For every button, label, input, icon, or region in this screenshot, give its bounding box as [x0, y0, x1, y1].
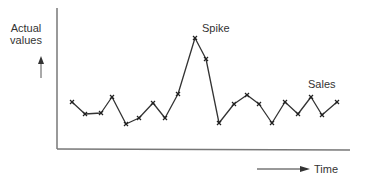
- y-axis-label-line2: values: [4, 34, 48, 46]
- x-arrow-icon: [257, 166, 310, 172]
- x-axis: [57, 149, 350, 150]
- sales-annotation: Sales: [308, 78, 336, 90]
- line-chart: [0, 0, 366, 184]
- y-axis-label-line1: Actual: [4, 22, 48, 34]
- x-axis-label: Time: [314, 163, 338, 175]
- spike-annotation: Spike: [202, 22, 230, 34]
- sales-series-line: [72, 38, 337, 124]
- y-axis-label: Actual values: [4, 22, 48, 46]
- y-arrow-icon: [38, 56, 44, 78]
